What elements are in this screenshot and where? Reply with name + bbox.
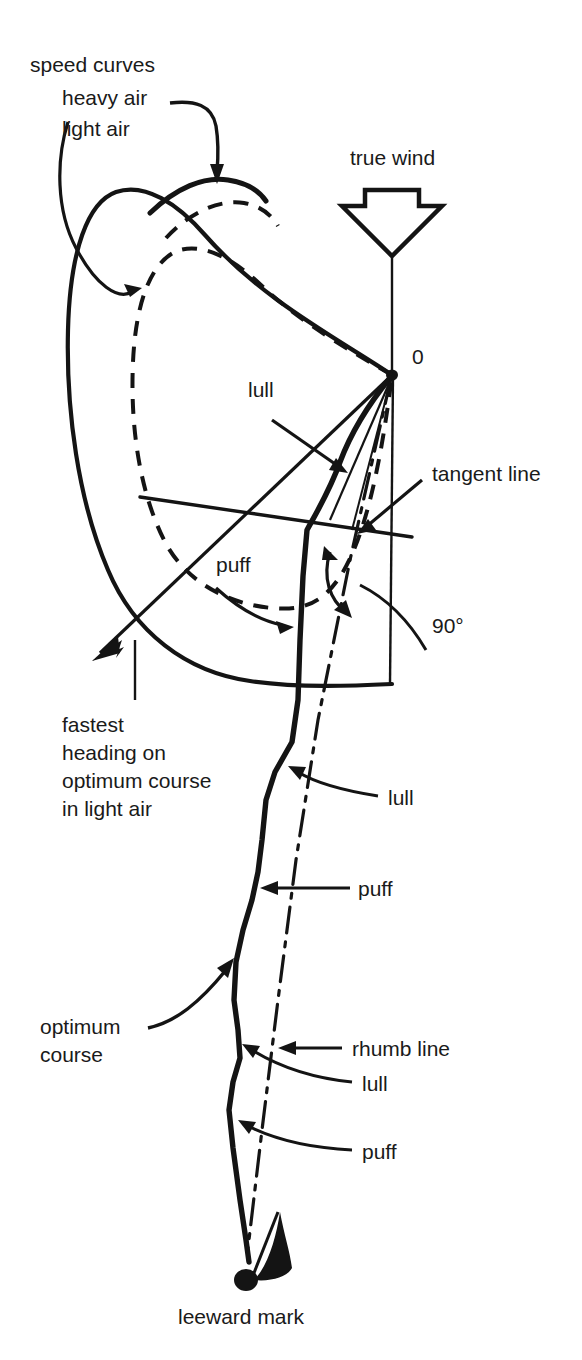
true-wind-arrow-icon [342, 190, 442, 256]
ninety-degree-leader [360, 585, 426, 650]
angle-90-label: 90° [432, 613, 464, 638]
optimum-course-line2: course [40, 1042, 103, 1067]
lull-upper-label: lull [248, 377, 274, 402]
heavy-air-curve-peak [150, 179, 266, 213]
origin-label: 0 [412, 344, 424, 369]
speed-curves-leader-arrow [170, 102, 224, 184]
lull-2-leader-arrow [242, 1044, 352, 1082]
heavy-air-label: heavy air [62, 85, 147, 110]
fastest-heading-line1: fastest [62, 712, 124, 737]
rhumb-line-label: rhumb line [352, 1036, 450, 1061]
lull-1-label: lull [388, 785, 414, 810]
puff-1-leader-arrow [260, 881, 350, 895]
puff-2-label: puff [362, 1139, 397, 1164]
light-air-label: light air [62, 116, 130, 141]
lull-1-leader-arrow [288, 766, 378, 796]
lull-2-label: lull [362, 1071, 388, 1096]
puff-2-leader-arrow [238, 1120, 352, 1150]
puff-upper-label: puff [216, 552, 251, 577]
speed-curves-label: speed curves [30, 52, 155, 77]
optimum-course-line1: optimum [40, 1014, 121, 1039]
fastest-heading-arrow [92, 377, 390, 661]
leeward-mark-label: leeward mark [178, 1304, 304, 1329]
puff-1-label: puff [358, 876, 393, 901]
tangent-line-label: tangent line [432, 461, 541, 486]
wind-axis-lower-line [390, 376, 393, 684]
light-air-curve-peak [166, 202, 278, 238]
optimum-course-leader-arrow [148, 958, 234, 1028]
fastest-heading-line3: optimum course [62, 768, 211, 793]
fastest-heading-line2: heading on [62, 740, 166, 765]
rhumb-line-leader-arrow [278, 1041, 342, 1055]
fastest-heading-line4: in light air [62, 796, 152, 821]
true-wind-label: true wind [350, 145, 435, 170]
sailing-diagram-canvas [0, 0, 582, 1360]
diagram-page: speed curves heavy air light air true wi… [0, 0, 582, 1360]
puff-upper-leader-arrow [216, 588, 294, 634]
